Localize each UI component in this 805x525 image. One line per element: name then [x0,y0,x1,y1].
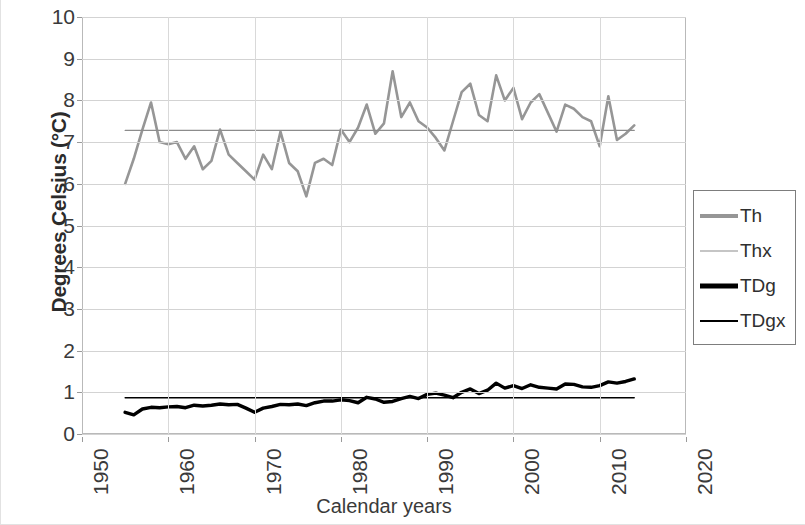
y-tick-mark [77,267,82,268]
y-gridline [82,100,686,101]
y-tick-label: 7 [41,131,75,152]
legend-swatch-tdgx [700,315,738,327]
legend-label: Thx [740,240,772,262]
x-tick-mark [255,437,256,442]
legend-label: Th [740,205,762,227]
x-tick-mark [427,437,428,442]
x-tick-mark [513,437,514,442]
x-tick-label: 2010 [608,448,629,495]
y-tick-mark [77,184,82,185]
y-tick-label: 8 [41,89,75,110]
y-tick-label: 1 [41,381,75,402]
x-tick-label: 1990 [435,448,456,495]
y-tick-label: 2 [41,340,75,361]
x-gridline [427,17,428,434]
y-tick-mark [77,309,82,310]
y-gridline [82,59,686,60]
y-tick-mark [77,226,82,227]
y-gridline [82,226,686,227]
y-gridline [82,434,686,435]
legend-item-th[interactable]: Th [700,201,795,231]
x-gridline [255,17,256,434]
chart-legend: ThThxTDgTDgx [693,190,796,345]
x-tick-mark [600,437,601,442]
y-tick-mark [77,392,82,393]
legend-swatch-tdg [700,280,738,292]
y-gridline [82,309,686,310]
x-tick-label: 1980 [349,448,370,495]
y-tick-label: 5 [41,215,75,236]
series-line-tdg [125,379,634,415]
chart-figure: Degrees Celsius (°C) 012345678910 195019… [0,0,805,525]
y-tick-label: 6 [41,173,75,194]
legend-swatch-thx [700,245,738,257]
y-gridline [82,267,686,268]
legend-label: TDgx [740,310,785,332]
y-tick-label: 10 [41,6,75,27]
x-axis-title: Calendar years [82,495,686,518]
legend-item-tdg[interactable]: TDg [700,271,795,301]
x-tick-label: 2020 [694,448,715,495]
y-gridline [82,351,686,352]
y-axis-tick-labels: 012345678910 [35,0,75,525]
y-gridline [82,392,686,393]
x-tick-label: 1970 [263,448,284,495]
x-tick-label: 1950 [90,448,111,495]
x-tick-mark [686,437,687,442]
x-gridline [341,17,342,434]
x-gridline [600,17,601,434]
y-gridline [82,142,686,143]
y-tick-mark [77,17,82,18]
legend-swatch-th [700,210,738,222]
y-tick-mark [77,351,82,352]
legend-label: TDg [740,275,776,297]
x-tick-mark [341,437,342,442]
series-line-th [125,71,634,196]
y-tick-mark [77,100,82,101]
y-tick-label: 9 [41,48,75,69]
x-gridline [168,17,169,434]
x-tick-mark [82,437,83,442]
y-tick-label: 0 [41,423,75,444]
y-tick-label: 3 [41,298,75,319]
y-gridline [82,184,686,185]
y-gridline [82,17,686,18]
legend-item-tdgx[interactable]: TDgx [700,306,795,336]
y-tick-mark [77,59,82,60]
x-gridline [513,17,514,434]
x-tick-label: 2000 [521,448,542,495]
plot-area [82,17,686,434]
y-tick-mark [77,142,82,143]
legend-item-thx[interactable]: Thx [700,236,795,266]
x-tick-mark [168,437,169,442]
x-tick-label: 1960 [176,448,197,495]
y-tick-label: 4 [41,256,75,277]
y-tick-mark [77,434,82,435]
